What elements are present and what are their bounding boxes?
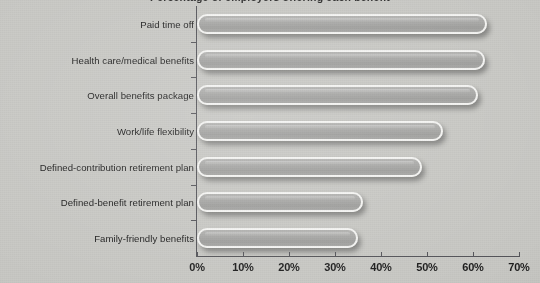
bar — [197, 157, 422, 177]
value-tick-label: 0% — [189, 261, 205, 273]
category-tick — [191, 185, 197, 186]
category-tick — [191, 220, 197, 221]
value-tick-label: 70% — [508, 261, 529, 273]
value-tick — [519, 252, 520, 257]
value-tick-label: 40% — [370, 261, 391, 273]
category-label: Family-friendly benefits — [94, 233, 194, 244]
bar-rect — [197, 121, 443, 141]
category-label: Health care/medical benefits — [72, 54, 194, 65]
bar-rect — [197, 228, 358, 248]
category-label: Defined-contribution retirement plan — [40, 161, 194, 172]
category-label: Paid time off — [140, 18, 194, 29]
value-tick — [427, 252, 428, 257]
category-label: Work/life flexibility — [117, 126, 194, 137]
category-tick — [191, 149, 197, 150]
value-axis-line — [196, 256, 520, 257]
category-label: Defined-benefit retirement plan — [61, 197, 194, 208]
bar — [197, 85, 478, 105]
bar-rect — [197, 192, 363, 212]
value-tick-label: 20% — [278, 261, 299, 273]
value-tick — [289, 252, 290, 257]
value-tick-label: 50% — [416, 261, 437, 273]
value-tick-label: 30% — [324, 261, 345, 273]
bar-rect — [197, 157, 422, 177]
bar — [197, 192, 363, 212]
value-tick — [381, 252, 382, 257]
category-tick — [191, 77, 197, 78]
value-tick — [197, 252, 198, 257]
value-tick — [473, 252, 474, 257]
bar — [197, 121, 443, 141]
bar-rect — [197, 50, 485, 70]
bar — [197, 50, 485, 70]
value-tick — [335, 252, 336, 257]
bar — [197, 228, 358, 248]
bar — [197, 14, 487, 34]
bar-rect — [197, 14, 487, 34]
value-tick-label: 60% — [462, 261, 483, 273]
value-tick — [243, 252, 244, 257]
bar-rect — [197, 85, 478, 105]
chart-title: Percentage of employers offering each be… — [0, 0, 540, 3]
category-label: Overall benefits package — [87, 90, 194, 101]
horizontal-bar-chart: Percentage of employers offering each be… — [0, 0, 540, 283]
category-tick — [191, 42, 197, 43]
value-tick-label: 10% — [232, 261, 253, 273]
category-tick — [191, 113, 197, 114]
